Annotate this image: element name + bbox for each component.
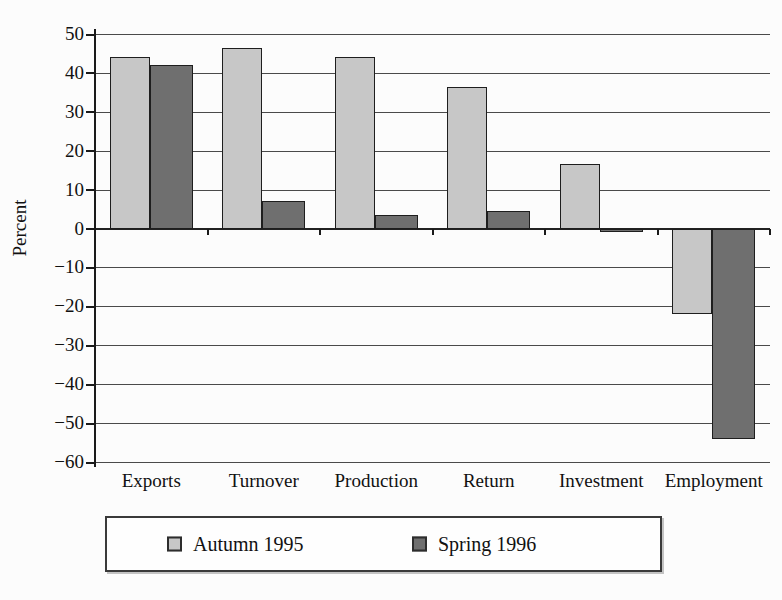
y-gridline [95, 267, 770, 268]
y-gridline [95, 112, 770, 113]
y-tick-label: 10 [36, 179, 84, 201]
x-category-label-return: Return [433, 470, 546, 492]
bar-spring-1996-turnover [262, 201, 305, 228]
y-gridline [95, 384, 770, 385]
bar-autumn-1995-production [335, 57, 375, 228]
y-gridline [95, 306, 770, 307]
bar-spring-1996-investment [600, 229, 643, 233]
y-tick-label: 40 [36, 62, 84, 84]
y-gridline [95, 345, 770, 346]
legend-item-spring-1996: Spring 1996 [412, 533, 536, 556]
x-axis-tick [319, 229, 321, 235]
bar-spring-1996-exports [150, 65, 193, 228]
y-gridline [95, 34, 770, 35]
legend: Autumn 1995 Spring 1996 [105, 516, 662, 572]
y-axis-title: Percent [9, 200, 31, 257]
bar-autumn-1995-employment [672, 229, 712, 315]
y-tick-label: 20 [36, 140, 84, 162]
y-tick-label: −40 [36, 373, 84, 395]
x-axis-tick [207, 229, 209, 235]
x-category-label-investment: Investment [545, 470, 658, 492]
y-axis-line [94, 29, 96, 467]
legend-item-autumn-1995: Autumn 1995 [167, 533, 304, 556]
y-tick-label: 30 [36, 101, 84, 123]
y-tick-label: −60 [36, 451, 84, 473]
y-tick-label: 50 [36, 23, 84, 45]
y-gridline [95, 423, 770, 424]
bar-autumn-1995-exports [110, 57, 150, 228]
x-axis-tick [769, 229, 771, 235]
x-category-label-employment: Employment [658, 470, 771, 492]
bar-spring-1996-employment [712, 229, 755, 439]
y-tick-label: −20 [36, 295, 84, 317]
x-category-label-production: Production [320, 470, 433, 492]
grouped-bar-chart-figure: Percent Autumn 1995 Spring 1996 50403020… [0, 0, 782, 600]
legend-swatch-spring-1996 [412, 537, 427, 552]
y-gridline [95, 151, 770, 152]
y-tick-label: 0 [36, 218, 84, 240]
x-category-label-exports: Exports [95, 470, 208, 492]
y-tick-label: −10 [36, 256, 84, 278]
bar-spring-1996-production [375, 215, 418, 229]
bar-autumn-1995-return [447, 87, 487, 229]
y-gridline [95, 73, 770, 74]
legend-label-spring-1996: Spring 1996 [438, 533, 536, 556]
y-tick-label: −30 [36, 334, 84, 356]
y-gridline [95, 190, 770, 191]
x-axis-tick [657, 229, 659, 235]
x-axis-tick [432, 229, 434, 235]
x-axis-tick [544, 229, 546, 235]
bar-autumn-1995-investment [560, 164, 600, 228]
legend-label-autumn-1995: Autumn 1995 [193, 533, 304, 556]
x-category-label-turnover: Turnover [208, 470, 321, 492]
bar-spring-1996-return [487, 211, 530, 229]
legend-swatch-autumn-1995 [167, 537, 182, 552]
y-tick-label: −50 [36, 412, 84, 434]
y-gridline [95, 462, 770, 463]
bar-autumn-1995-turnover [222, 48, 262, 229]
